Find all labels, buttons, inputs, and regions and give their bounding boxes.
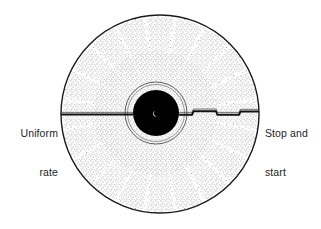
label-stop-and-start-line2: start [265, 166, 319, 179]
uniform-rate-groove [61, 112, 133, 114]
label-stop-and-start: Stop and start [265, 101, 319, 205]
label-stop-and-start-line1: Stop and [265, 127, 319, 140]
label-uniform-rate-line2: rate [4, 166, 58, 179]
label-uniform-rate-line1: Uniform [4, 127, 58, 140]
record-hub [133, 90, 179, 136]
record-groove-figure: Uniform rate Stop and start [0, 0, 321, 229]
label-uniform-rate: Uniform rate [4, 101, 58, 205]
